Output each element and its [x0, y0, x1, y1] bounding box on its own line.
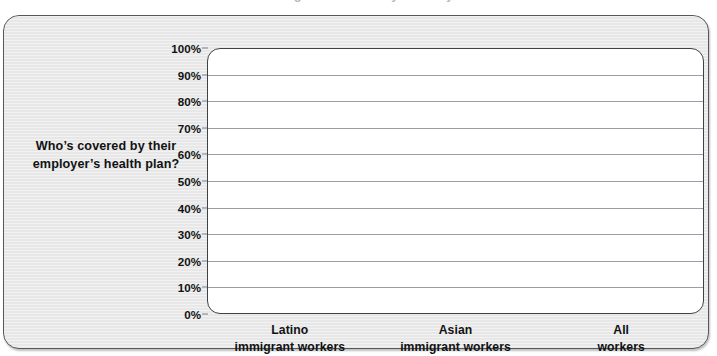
y-axis-tick-mark: [202, 314, 208, 315]
y-axis-tick-label: 40%: [144, 201, 201, 214]
x-axis-category-label: Allworkers: [538, 322, 704, 356]
y-axis-tick-label: 30%: [144, 228, 201, 241]
x-axis-category-line: Latino: [207, 322, 373, 339]
y-axis-tick-label: 80%: [144, 95, 201, 108]
x-axis-category-line: immigrant workers: [373, 339, 539, 356]
x-axis-category-line: Asian: [373, 322, 539, 339]
y-axis: 100%90%80%70%60%50%40%30%20%10%0%: [144, 48, 201, 314]
y-axis-tick-label: 0%: [144, 308, 201, 321]
y-axis-tick-label: 20%: [144, 254, 201, 267]
y-axis-tick-label: 100%: [144, 42, 201, 55]
bars-layer: [208, 49, 703, 313]
y-axis-tick-label: 50%: [144, 175, 201, 188]
x-axis-category-line: immigrant workers: [207, 339, 373, 356]
x-axis-category-label: Latinoimmigrant workers: [207, 322, 373, 356]
y-axis-tick-label: 70%: [144, 121, 201, 134]
plot-area: [207, 48, 704, 314]
y-axis-tick-label: 60%: [144, 148, 201, 161]
x-axis-category-label: Asianimmigrant workers: [373, 322, 539, 356]
cropped-title-text: immigrant workers by industry: [0, 0, 717, 2]
y-axis-tick-label: 10%: [144, 281, 201, 294]
x-axis-category-line: All: [538, 322, 704, 339]
cropped-title-fragment: immigrant workers by industry: [0, 0, 717, 11]
x-axis-category-line: workers: [538, 339, 704, 356]
x-axis: Latinoimmigrant workersAsianimmigrant wo…: [207, 322, 704, 356]
y-axis-tick-label: 90%: [144, 68, 201, 81]
chart-card: Who’s covered by their employer’s health…: [3, 15, 709, 349]
